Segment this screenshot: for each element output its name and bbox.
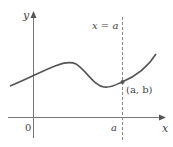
function-curve bbox=[10, 54, 156, 87]
vertical-line-label: x = a bbox=[92, 20, 118, 31]
x-tick-label-a: a bbox=[111, 122, 117, 133]
point-label: (a, b) bbox=[126, 84, 153, 95]
x-axis-arrow-icon bbox=[159, 115, 166, 121]
x-axis bbox=[8, 115, 166, 121]
point-a-b bbox=[121, 80, 125, 84]
y-axis-arrow-icon bbox=[31, 11, 37, 18]
origin-label: 0 bbox=[25, 122, 31, 133]
x-axis-label: x bbox=[162, 122, 169, 135]
function-graph-figure: y x 0 a x = a (a, b) bbox=[0, 0, 173, 147]
y-axis-label: y bbox=[22, 9, 30, 22]
